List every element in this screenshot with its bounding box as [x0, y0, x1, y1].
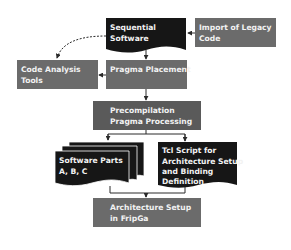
node-sequential-software[interactable]: Sequential Software	[106, 18, 186, 53]
tcl-line2: Architecture Setup	[162, 157, 244, 166]
node-precompilation[interactable]: Precompilation Pragma Processing	[93, 101, 201, 130]
tcl-line3: and Binding	[162, 167, 213, 176]
node-import-legacy-code[interactable]: Import of Legacy Code	[195, 18, 276, 47]
code-analysis-line1: Code Analysis	[21, 65, 81, 74]
node-architecture-setup[interactable]: Architecture Setup in FripGa	[93, 198, 201, 227]
sequential-line1: Sequential	[110, 23, 156, 32]
software-parts-line1: Software Parts	[59, 156, 123, 165]
edge-merge-to-architecture	[110, 186, 185, 197]
tcl-line4: Definition	[162, 177, 204, 186]
import-line1: Import of Legacy	[199, 23, 272, 32]
precompilation-line2: Pragma Processing	[110, 117, 192, 126]
node-pragma-placement[interactable]: Pragma Placement	[106, 60, 191, 89]
precompilation-line1: Precompilation	[110, 106, 175, 115]
sequential-line2: Software	[110, 34, 149, 43]
architecture-line1: Architecture Setup	[110, 203, 192, 212]
tcl-line1: Tcl Script for	[162, 146, 216, 155]
node-software-parts[interactable]: Software Parts A, B, C	[55, 142, 144, 186]
edge-precompilation-split	[108, 130, 185, 141]
architecture-line2: in FripGa	[110, 214, 149, 223]
import-line2: Code	[199, 34, 220, 43]
flow-diagram: Sequential Software Import of Legacy Cod…	[0, 0, 291, 250]
software-parts-line2: A, B, C	[59, 167, 88, 176]
code-analysis-line2: Tools	[21, 76, 43, 85]
pragma-placement-line1: Pragma Placement	[110, 65, 191, 74]
edge-sequential-to-code-analysis	[57, 36, 106, 58]
node-tcl-script[interactable]: Tcl Script for Architecture Setup and Bi…	[158, 142, 244, 188]
node-code-analysis-tools[interactable]: Code Analysis Tools	[17, 60, 98, 89]
